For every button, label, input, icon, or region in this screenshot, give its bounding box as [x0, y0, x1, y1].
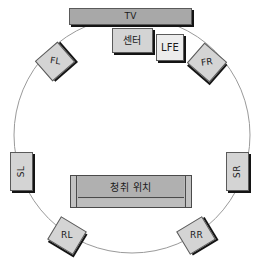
- surround-left-speaker: SL: [10, 152, 33, 191]
- front-left-speaker-label: FL: [49, 56, 61, 66]
- tv-label: TV: [124, 12, 136, 21]
- center-speaker: 센터: [112, 28, 153, 53]
- surround-right-speaker-label: SR: [233, 165, 242, 178]
- speaker-layout-diagram: TV 센터 LFE FL FR SL SR RL RR 청취 위치: [0, 0, 263, 265]
- sofa-backrest: 청취 위치: [78, 176, 184, 198]
- rear-right-speaker-label: RR: [190, 231, 203, 240]
- listening-position-label: 청취 위치: [110, 179, 152, 194]
- front-right-speaker-label: FR: [201, 57, 214, 68]
- rear-left-speaker-label: RL: [61, 231, 73, 240]
- listening-position: 청취 위치: [70, 175, 192, 208]
- center-speaker-label: 센터: [123, 36, 141, 46]
- sofa-left-armrest: [71, 176, 77, 207]
- sofa-right-armrest: [185, 176, 191, 207]
- lfe-subwoofer: LFE: [156, 34, 184, 61]
- lfe-subwoofer-label: LFE: [161, 43, 179, 53]
- tv-panel: TV: [69, 8, 192, 25]
- surround-right-speaker: SR: [226, 152, 249, 191]
- surround-left-speaker-label: SL: [17, 166, 26, 178]
- sofa-cushion: [78, 199, 184, 207]
